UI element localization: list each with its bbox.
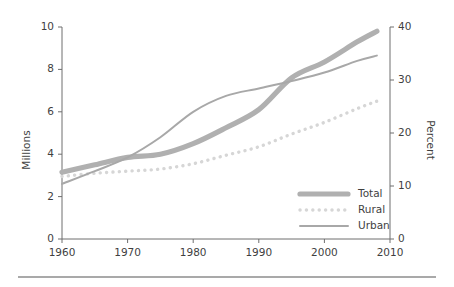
y-tick-label: 10 (41, 20, 54, 32)
y2-axis-title: Percent (425, 120, 437, 160)
y2-tick-label: 20 (398, 126, 411, 138)
chart-content: 1960197019801990200020100246810010203040… (41, 20, 412, 258)
y-axis-title: Millions (20, 130, 32, 169)
y2-tick-label: 10 (398, 179, 411, 191)
y-tick-label: 6 (47, 105, 54, 117)
x-tick-label: 2000 (311, 246, 338, 258)
chart-figure: 1960197019801990200020100246810010203040… (0, 0, 454, 287)
line-chart: 1960197019801990200020100246810010203040… (0, 0, 454, 287)
axes-spines (62, 27, 390, 239)
y-tick-label: 2 (47, 190, 54, 202)
y2-tick-label: 30 (398, 73, 411, 85)
legend-label-urban: Urban (358, 219, 390, 231)
y2-tick-label: 40 (398, 20, 411, 32)
y-tick-label: 8 (47, 62, 54, 74)
y-tick-label: 0 (47, 232, 54, 244)
x-tick-label: 1970 (114, 246, 141, 258)
legend-label-rural: Rural (358, 203, 385, 215)
legend-label-total: Total (357, 187, 383, 199)
y-tick-label: 4 (47, 147, 54, 159)
series-line-total (62, 31, 377, 172)
x-tick-label: 1990 (245, 246, 272, 258)
x-tick-label: 1960 (49, 246, 76, 258)
y2-tick-label: 0 (398, 232, 405, 244)
x-tick-label: 2010 (377, 246, 404, 258)
x-tick-label: 1980 (180, 246, 207, 258)
